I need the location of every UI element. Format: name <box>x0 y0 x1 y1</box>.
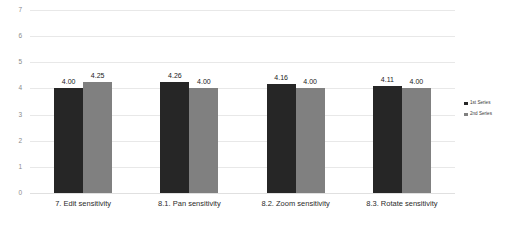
legend-swatch-icon <box>464 102 468 106</box>
legend-label: 1st Series <box>470 101 490 106</box>
x-axis: 7. Edit sensitivity8.1. Pan sensitivity8… <box>30 196 455 214</box>
y-axis-tick-label: 6 <box>18 33 22 40</box>
y-axis-tick-label: 5 <box>18 59 22 66</box>
y-axis-tick-label: 0 <box>18 190 22 197</box>
x-axis-category-label: 7. Edit sensitivity <box>55 200 111 208</box>
y-axis-tick-label: 4 <box>18 85 22 92</box>
bar-group: 4.114.00 <box>30 10 455 193</box>
gridline <box>30 193 455 194</box>
chart-legend: 1st Series2nd Series <box>464 99 512 121</box>
x-axis-category-label: 8.3. Rotate sensitivity <box>366 200 437 208</box>
bar-value-label: 4.00 <box>410 78 424 85</box>
y-axis-tick-label: 7 <box>18 7 22 14</box>
legend-item[interactable]: 2nd Series <box>464 110 512 119</box>
bar-value-label: 4.11 <box>381 76 394 83</box>
legend-item[interactable]: 1st Series <box>464 99 512 108</box>
legend-label: 2nd Series <box>470 112 492 117</box>
bar-series2 <box>402 88 431 193</box>
bar-groups-layer: 4.004.254.264.004.164.004.114.00 <box>30 10 455 193</box>
y-axis-tick-label: 3 <box>18 111 22 118</box>
legend-swatch-icon <box>464 113 468 117</box>
x-axis-category-label: 8.2. Zoom sensitivity <box>261 200 329 208</box>
bar-series1 <box>373 86 402 193</box>
y-axis-tick-label: 2 <box>18 137 22 144</box>
bar-chart: 01234567 4.004.254.264.004.164.004.114.0… <box>0 0 513 228</box>
x-axis-category-label: 8.1. Pan sensitivity <box>158 200 221 208</box>
y-axis-tick-label: 1 <box>18 164 22 171</box>
y-axis: 01234567 <box>0 10 28 193</box>
